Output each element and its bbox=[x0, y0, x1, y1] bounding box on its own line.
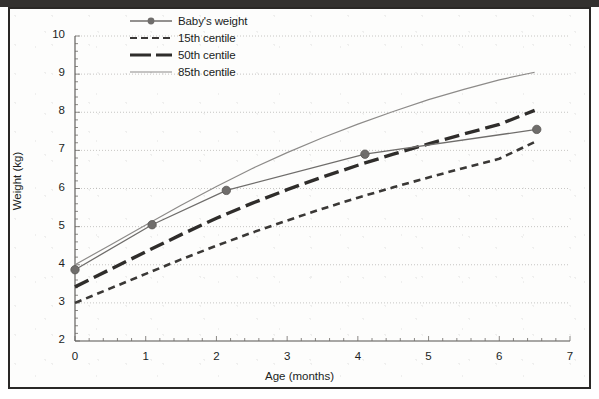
y-tick-label: 6 bbox=[43, 181, 65, 193]
growth-chart: 2345678910 01234567 Weight (kg) Age (mon… bbox=[0, 0, 599, 399]
legend-item-babys-weight[interactable]: Baby's weight bbox=[128, 12, 328, 29]
x-tick-label: 0 bbox=[65, 350, 85, 362]
chart-legend: Baby's weight 15th centile 50th centile bbox=[128, 12, 328, 80]
gridlines bbox=[75, 36, 570, 341]
short-dash-swatch-icon bbox=[128, 31, 174, 45]
legend-label: 15th centile bbox=[178, 32, 236, 44]
x-tick-label: 2 bbox=[206, 350, 226, 362]
y-tick-label: 9 bbox=[43, 66, 65, 78]
y-axis-title: Weight (kg) bbox=[11, 136, 23, 226]
legend-item-15th-centile[interactable]: 15th centile bbox=[128, 29, 328, 46]
x-tick-label: 3 bbox=[277, 350, 297, 362]
legend-item-85th-centile[interactable]: 85th centile bbox=[128, 63, 328, 80]
x-tick-label: 7 bbox=[560, 350, 580, 362]
y-tick-label: 5 bbox=[43, 219, 65, 231]
thin-line-swatch-icon bbox=[128, 65, 174, 79]
x-axis-title: Age (months) bbox=[0, 370, 599, 382]
x-tick-label: 6 bbox=[489, 350, 509, 362]
series-15th-centile bbox=[75, 142, 535, 303]
y-tick-label: 10 bbox=[43, 28, 65, 40]
legend-label: 85th centile bbox=[178, 66, 236, 78]
line-marker-swatch-icon bbox=[128, 14, 174, 28]
y-tick-label: 8 bbox=[43, 104, 65, 116]
y-tick-label: 7 bbox=[43, 142, 65, 154]
y-tick-label: 2 bbox=[43, 333, 65, 345]
long-dash-swatch-icon bbox=[128, 48, 174, 62]
x-tick-label: 5 bbox=[419, 350, 439, 362]
legend-item-50th-centile[interactable]: 50th centile bbox=[128, 46, 328, 63]
y-tick-label: 4 bbox=[43, 257, 65, 269]
y-tick-label: 3 bbox=[43, 295, 65, 307]
legend-label: Baby's weight bbox=[178, 15, 247, 27]
x-tick-label: 4 bbox=[348, 350, 368, 362]
babys-weight-markers bbox=[71, 125, 541, 274]
series-50th-centile bbox=[75, 110, 535, 287]
legend-label: 50th centile bbox=[178, 49, 236, 61]
x-tick-label: 1 bbox=[136, 350, 156, 362]
